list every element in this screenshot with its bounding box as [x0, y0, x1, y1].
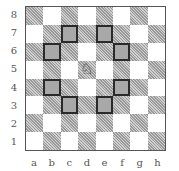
rank-label-8: 8: [8, 6, 20, 24]
square-h8: [148, 7, 165, 25]
square-c4: [61, 79, 78, 97]
square-e5: [96, 61, 113, 79]
rank-label-4: 4: [8, 79, 20, 97]
square-h7: [148, 25, 165, 43]
square-f1: [113, 132, 130, 150]
knight-icon: ♘: [78, 61, 95, 79]
square-g4: [130, 79, 147, 97]
square-f6: [113, 43, 130, 61]
square-f7: [113, 25, 130, 43]
square-a4: [26, 79, 43, 97]
square-e1: [96, 132, 113, 150]
square-h5: [148, 61, 165, 79]
square-a3: [26, 96, 43, 114]
square-a2: [26, 114, 43, 132]
square-g6: [130, 43, 147, 61]
rank-label-5: 5: [8, 60, 20, 78]
square-f5: [113, 61, 130, 79]
square-g2: [130, 114, 147, 132]
square-e6: [96, 43, 113, 61]
square-f3: [113, 96, 130, 114]
file-label-g: g: [131, 156, 149, 170]
square-d8: [78, 7, 95, 25]
file-label-b: b: [43, 156, 61, 170]
square-d6: [78, 43, 95, 61]
square-a5: [26, 61, 43, 79]
square-b8: [43, 7, 60, 25]
square-b4: [43, 79, 60, 97]
square-f8: [113, 7, 130, 25]
square-h4: [148, 79, 165, 97]
square-c8: [61, 7, 78, 25]
file-label-e: e: [96, 156, 114, 170]
square-g3: [130, 96, 147, 114]
file-label-a: a: [25, 156, 43, 170]
square-e2: [96, 114, 113, 132]
square-e3: [96, 96, 113, 114]
square-a8: [26, 7, 43, 25]
square-c1: [61, 132, 78, 150]
square-h2: [148, 114, 165, 132]
rank-label-1: 1: [8, 133, 20, 151]
square-d2: [78, 114, 95, 132]
square-d5: ♘: [78, 61, 95, 79]
square-g1: [130, 132, 147, 150]
square-c5: [61, 61, 78, 79]
square-d4: [78, 79, 95, 97]
square-c2: [61, 114, 78, 132]
square-f4: [113, 79, 130, 97]
square-e8: [96, 7, 113, 25]
file-label-c: c: [60, 156, 78, 170]
square-a1: [26, 132, 43, 150]
square-b6: [43, 43, 60, 61]
square-d1: [78, 132, 95, 150]
square-b2: [43, 114, 60, 132]
square-d7: [78, 25, 95, 43]
square-c6: [61, 43, 78, 61]
rank-label-2: 2: [8, 115, 20, 133]
square-e7: [96, 25, 113, 43]
square-h6: [148, 43, 165, 61]
square-g7: [130, 25, 147, 43]
square-a7: [26, 25, 43, 43]
square-b5: [43, 61, 60, 79]
square-c7: [61, 25, 78, 43]
square-f2: [113, 114, 130, 132]
square-b1: [43, 132, 60, 150]
square-c3: [61, 96, 78, 114]
square-e4: [96, 79, 113, 97]
rank-label-6: 6: [8, 42, 20, 60]
file-label-h: h: [148, 156, 166, 170]
file-label-f: f: [113, 156, 131, 170]
file-label-d: d: [78, 156, 96, 170]
square-g8: [130, 7, 147, 25]
rank-label-7: 7: [8, 24, 20, 42]
square-d3: [78, 96, 95, 114]
chessboard: ♘: [25, 6, 166, 151]
square-b3: [43, 96, 60, 114]
square-h1: [148, 132, 165, 150]
square-a6: [26, 43, 43, 61]
rank-label-3: 3: [8, 97, 20, 115]
square-b7: [43, 25, 60, 43]
square-h3: [148, 96, 165, 114]
square-g5: [130, 61, 147, 79]
